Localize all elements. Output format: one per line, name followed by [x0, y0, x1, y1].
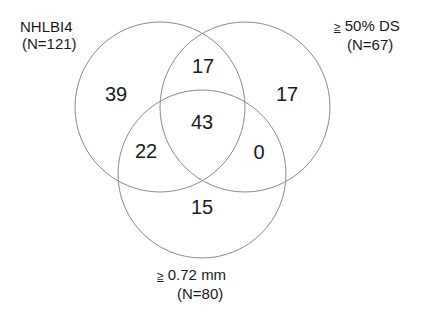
region-abc: 43	[191, 111, 213, 133]
set-b-name: 50% DS	[345, 17, 400, 34]
set-c-count: (N=80)	[157, 285, 226, 302]
region-c-only: 15	[191, 196, 213, 218]
set-b-count: (N=67)	[334, 36, 400, 53]
label-set-c: ≥ 0.72 mm (N=80)	[157, 266, 226, 302]
label-set-b: ≥ 50% DS (N=67)	[334, 17, 400, 53]
label-set-a: NHLBI4 (N=121)	[20, 18, 77, 52]
set-c-name: 0.72 mm	[168, 266, 226, 283]
ge-symbol: ≥	[334, 20, 341, 34]
region-ac-only: 22	[135, 140, 157, 162]
set-a-name: NHLBI4	[20, 18, 77, 35]
set-a-count: (N=121)	[20, 35, 77, 52]
region-ab-only: 17	[192, 55, 214, 77]
region-b-only: 17	[276, 83, 298, 105]
region-a-only: 39	[105, 83, 127, 105]
region-bc-only: 0	[253, 141, 264, 163]
ge-symbol: ≥	[157, 269, 164, 283]
